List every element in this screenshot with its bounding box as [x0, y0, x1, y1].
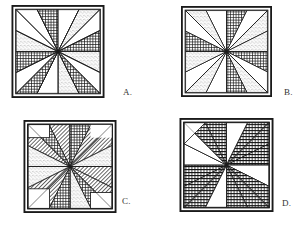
option-cell-d: D.: [154, 114, 308, 228]
quilt-block-b[interactable]: [180, 6, 273, 97]
option-label-a: A.: [123, 87, 132, 97]
option-cell-a: A.: [0, 0, 154, 114]
option-label-c: C.: [122, 196, 131, 206]
options-grid: A.: [0, 0, 308, 228]
option-label-b: B.: [284, 87, 293, 97]
option-label-d: D.: [282, 198, 291, 208]
option-cell-c: C.: [0, 114, 154, 228]
quilt-block-c[interactable]: [22, 120, 118, 213]
quilt-block-d[interactable]: [178, 118, 275, 212]
option-cell-b: B.: [154, 0, 308, 114]
quilt-block-a[interactable]: [10, 5, 106, 98]
